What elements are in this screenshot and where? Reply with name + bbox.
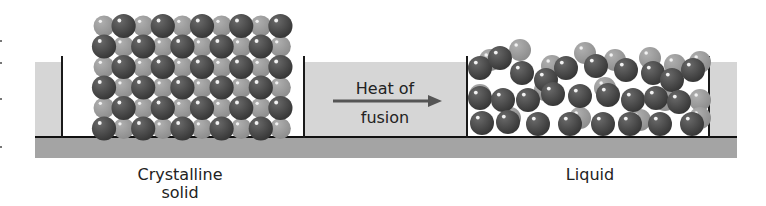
arrow-label-line1: Heat of bbox=[340, 79, 430, 99]
solid-label-line2: solid bbox=[110, 183, 250, 203]
liquid-label: Liquid bbox=[540, 165, 640, 185]
solid-label-line1: Crystalline bbox=[110, 165, 250, 185]
liquid-molecules bbox=[468, 39, 711, 136]
arrow-label-line2: fusion bbox=[340, 108, 430, 128]
crystalline-solid-lattice bbox=[92, 14, 293, 141]
